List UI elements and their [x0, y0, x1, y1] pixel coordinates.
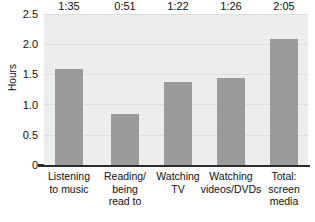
bar	[111, 114, 139, 165]
bar-group: 1:26	[217, 14, 245, 165]
x-axis-label-line: media	[254, 195, 314, 208]
bar-chart: Hours 2.5 2.0 1.5 1.0 0.5 0 1:35 0:51 1:…	[0, 0, 315, 222]
bar	[55, 69, 83, 165]
bar-group: 2:05	[270, 14, 298, 165]
y-tick-label: 1.0	[4, 100, 38, 111]
bar-value-label: 1:26	[220, 1, 241, 12]
y-tick-label: 2.5	[4, 9, 38, 20]
bar-group: 1:35	[55, 14, 83, 165]
bar-value-label: 2:05	[273, 1, 294, 12]
x-axis-label: Total:screenmedia	[254, 170, 314, 208]
plot-area: 1:35 0:51 1:22 1:26 2:05	[44, 14, 308, 165]
bar-value-label: 0:51	[114, 1, 135, 12]
bar	[217, 78, 245, 165]
bar-value-label: 1:35	[58, 1, 79, 12]
x-axis-line	[38, 165, 310, 167]
bar-group: 0:51	[111, 14, 139, 165]
y-tick-label: 1.5	[4, 69, 38, 80]
y-tick-label: 0	[4, 160, 38, 171]
bar-group: 1:22	[164, 14, 192, 165]
y-tick-label: 0.5	[4, 130, 38, 141]
bar	[270, 39, 298, 165]
y-tick-label: 2.0	[4, 39, 38, 50]
y-axis-zero-tick	[38, 164, 44, 166]
bar-value-label: 1:22	[167, 1, 188, 12]
x-axis-labels: Listeningto music Reading/beingread to W…	[44, 170, 308, 220]
x-axis-label-line: Total:	[254, 170, 314, 183]
x-axis-label-line: read to	[92, 195, 158, 208]
y-axis-ticks: 2.5 2.0 1.5 1.0 0.5 0	[0, 0, 38, 222]
x-axis-label-line: screen	[254, 183, 314, 196]
bar	[164, 82, 192, 165]
